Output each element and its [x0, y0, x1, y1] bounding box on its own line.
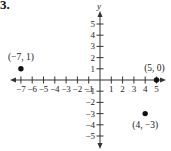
y-axis-down-arrow-icon [98, 143, 103, 149]
y-tick-label: 5 [91, 19, 96, 29]
x-tick-label: −3 [61, 84, 71, 94]
x-tick-label: −6 [27, 84, 37, 94]
x-tick-label: −2 [73, 84, 83, 94]
y-tick-label: 3 [91, 41, 96, 51]
y-axis-label: y [96, 1, 101, 11]
data-point [18, 66, 23, 71]
y-tick-label: −1 [85, 86, 95, 96]
x-axis-right-arrow-icon [160, 78, 166, 83]
y-tick-label: 2 [91, 53, 96, 63]
x-tick-label: −4 [50, 84, 60, 94]
y-tick-label: −4 [85, 120, 95, 130]
x-tick-label: 5 [154, 84, 159, 94]
y-tick-label: −3 [85, 109, 95, 119]
y-tick-label: 4 [91, 30, 96, 40]
y-axis-up-arrow-icon [98, 11, 103, 17]
coordinate-plane: y −7−6−5−4−3−2−112345 −5−4−3−2−112345 (−… [0, 0, 171, 151]
data-point-label: (−7, 1) [8, 52, 34, 63]
y-tick-label: −5 [85, 131, 95, 141]
y-tick-label: 1 [91, 64, 96, 74]
x-tick-label: −7 [16, 84, 26, 94]
y-tick-label: −2 [85, 97, 95, 107]
data-point [154, 77, 159, 82]
data-point-label: (5, 0) [144, 63, 165, 74]
data-point-label: (4, −3) [132, 120, 158, 131]
data-point [143, 111, 148, 116]
x-axis-left-arrow-icon [10, 78, 16, 83]
x-tick-label: 2 [120, 84, 125, 94]
x-tick-label: −5 [39, 84, 49, 94]
x-tick-label: 1 [109, 84, 114, 94]
x-tick-label: 4 [143, 84, 148, 94]
x-tick-label: 3 [132, 84, 137, 94]
